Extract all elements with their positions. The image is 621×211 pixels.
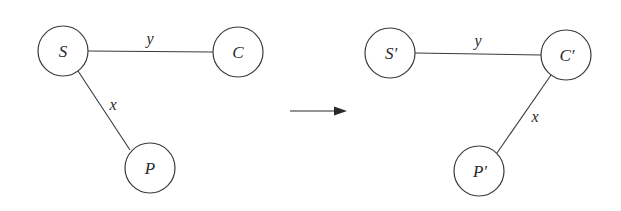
edge-s-p xyxy=(78,71,130,150)
node-c-prime: C′ xyxy=(541,30,591,80)
before-graph: y x S C P xyxy=(38,26,263,193)
node-s-prime: S′ xyxy=(365,28,415,78)
node-s: S xyxy=(38,26,88,76)
node-p-label: P xyxy=(144,159,155,178)
edge-s-c xyxy=(88,51,213,52)
node-p-prime: P′ xyxy=(454,146,504,196)
graph-transformation-diagram: y x S C P y x S′ C′ xyxy=(0,0,621,211)
after-graph: y x S′ C′ P′ xyxy=(365,28,591,196)
edge-label-x-prime: x xyxy=(530,108,538,125)
node-p: P xyxy=(125,143,175,193)
node-c: C xyxy=(213,27,263,77)
transform-arrow xyxy=(290,107,347,116)
node-c-prime-label: C′ xyxy=(559,46,574,65)
edge-label-x: x xyxy=(108,96,116,113)
node-c-label: C xyxy=(232,43,244,62)
arrow-right-icon xyxy=(334,107,347,116)
edge-s-prime-c-prime xyxy=(415,53,541,55)
edge-label-y: y xyxy=(144,30,154,48)
node-s-label: S xyxy=(59,42,68,61)
node-s-prime-label: S′ xyxy=(385,44,398,63)
edge-c-prime-p-prime xyxy=(497,75,551,153)
node-p-prime-label: P′ xyxy=(472,162,487,181)
edge-label-y-prime: y xyxy=(472,32,482,50)
